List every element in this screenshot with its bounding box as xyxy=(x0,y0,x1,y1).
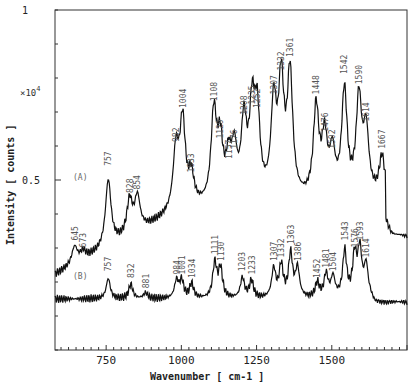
peak-label: 1004 xyxy=(179,89,188,108)
peak-label: 1543 xyxy=(341,221,350,240)
peak-label: 1502 xyxy=(328,129,337,148)
x-axis-ticks xyxy=(61,345,407,350)
peak-label: 1363 xyxy=(287,225,296,244)
peak-label: 1476 xyxy=(321,112,330,131)
peak-label: 1034 xyxy=(188,259,197,278)
peak-label: 1614 xyxy=(362,102,371,121)
x-tick-label: 1500 xyxy=(319,354,346,367)
peak-label: 1448 xyxy=(312,75,321,94)
y-axis-title: Intensity [ counts ] xyxy=(5,125,16,245)
peak-label: 1542 xyxy=(340,55,349,74)
peak-label: 1108 xyxy=(210,82,219,101)
y-tick-label-mid: 0.5 xyxy=(22,175,40,186)
peak-label: 1332 xyxy=(277,51,286,70)
peak-label: 1667 xyxy=(378,129,387,148)
peak-label: 1504 xyxy=(329,252,338,271)
peak-label: 673 xyxy=(79,233,88,248)
peak-labels-a: 6456737578288549821004103311081129115711… xyxy=(71,38,387,248)
x-tick-label: 1250 xyxy=(243,354,270,367)
x-tick-label: 750 xyxy=(96,354,116,367)
peak-label: 1452 xyxy=(313,259,322,278)
peak-label: 1203 xyxy=(238,252,247,271)
peak-label: 1129 xyxy=(216,119,225,138)
spectrum-chart: 1 0.5 ×104 Intensity [ counts ] 75010001… xyxy=(0,0,414,384)
peak-label: 1176 xyxy=(230,129,239,148)
peak-label: 1001 xyxy=(178,255,187,274)
x-tick-label: 1000 xyxy=(168,354,195,367)
peak-label: 1593 xyxy=(356,221,365,240)
y-multiplier: ×104 xyxy=(20,85,40,98)
series-label-b: (B) xyxy=(73,272,87,281)
peak-label: 1252 xyxy=(253,89,262,108)
x-axis-title: Wavenumber [ cm-1 ] xyxy=(150,371,264,382)
series-label-a: (A) xyxy=(73,173,87,182)
peak-label: 1307 xyxy=(270,75,279,94)
peak-label: 1233 xyxy=(248,255,257,274)
peak-label: 1033 xyxy=(187,153,196,172)
peak-label: 757 xyxy=(104,151,113,166)
peak-label: 881 xyxy=(142,274,151,289)
peak-label: 1590 xyxy=(355,65,364,84)
peak-label: 1386 xyxy=(294,242,303,261)
peak-label: 1130 xyxy=(217,242,226,261)
peak-label: 982 xyxy=(172,127,181,142)
x-axis-labels: 750100012501500 xyxy=(96,354,345,367)
peak-label: 832 xyxy=(127,263,136,278)
peak-label: 1332 xyxy=(277,238,286,257)
peak-label: 757 xyxy=(104,257,113,272)
y-tick-label-top: 1 xyxy=(22,5,28,16)
peak-label: 1614 xyxy=(362,238,371,257)
peak-label: 1361 xyxy=(286,38,295,57)
peak-label: 854 xyxy=(133,175,142,190)
